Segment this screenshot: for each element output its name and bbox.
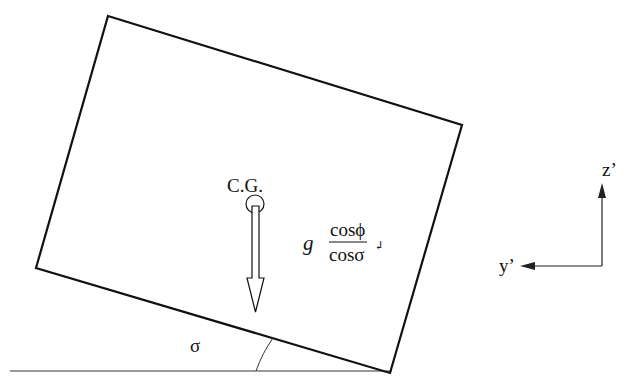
g-symbol: g bbox=[303, 231, 314, 255]
y-axis-label: y’ bbox=[499, 255, 515, 276]
cg-label: C.G. bbox=[227, 175, 263, 196]
return-mark: ↲ bbox=[374, 239, 384, 253]
sigma-label: σ bbox=[190, 335, 200, 356]
gravity-arrow bbox=[247, 206, 264, 312]
angle-arc bbox=[256, 338, 273, 371]
fraction-numerator: cosϕ bbox=[330, 219, 365, 240]
fraction-denominator: cosσ bbox=[329, 244, 365, 265]
z-axis-arrowhead bbox=[598, 183, 606, 198]
tilted-block-diagram: C.G. g cosϕ cosσ ↲ σ z’ y’ bbox=[0, 0, 633, 390]
y-axis-arrowhead bbox=[520, 262, 535, 270]
z-axis-label: z’ bbox=[602, 159, 617, 180]
